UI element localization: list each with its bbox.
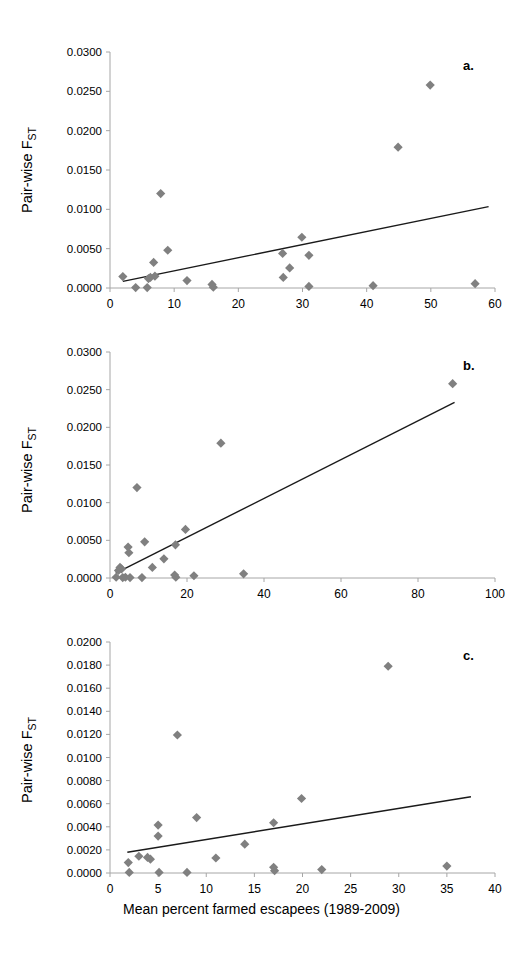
data-point [148,563,157,572]
x-tick-label: 80 [411,587,425,601]
data-point [384,662,393,671]
y-tick-label: 0.0100 [67,497,102,509]
y-tick-label: 0.0020 [67,844,102,856]
panel-c: 0.00000.00200.00400.00600.00800.01000.01… [0,620,523,910]
y-tick-label: 0.0200 [67,636,102,648]
svg-text:Pair-wise FST: Pair-wise FST [19,126,38,213]
data-point [124,858,133,867]
x-tick-label: 25 [344,882,358,896]
x-tick-label: 10 [200,882,214,896]
y-tick-label: 0.0300 [67,46,102,58]
data-point [173,730,182,739]
y-tick-label: 0.0140 [67,705,102,717]
x-tick-label: 20 [232,297,246,311]
data-point [471,279,480,288]
x-tick-label: 10 [167,297,181,311]
x-tick-label: 20 [180,587,194,601]
svg-text:Pair-wise FST: Pair-wise FST [19,716,38,803]
data-point [154,868,163,877]
data-point [181,525,190,534]
y-tick-label: 0.0150 [67,164,102,176]
y-tick-label: 0.0000 [67,867,102,879]
y-tick-label: 0.0100 [67,203,102,215]
x-tick-label: 60 [334,587,348,601]
x-axis-title: Mean percent farmed escapees (1989-2009) [0,901,523,917]
data-point [163,246,172,255]
y-axis-title: Pair-wise FST [19,716,38,803]
data-point [124,548,133,557]
data-point [182,868,191,877]
data-point [297,794,306,803]
data-point [426,80,435,89]
y-tick-label: 0.0050 [67,534,102,546]
y-tick-label: 0.0300 [67,346,102,358]
data-point [304,282,313,291]
data-point [192,813,201,822]
panel-a: 0.00000.00500.01000.01500.02000.02500.03… [0,20,523,320]
data-point [269,818,278,827]
data-point [134,852,143,861]
x-tick-label: 60 [488,297,502,311]
x-tick-label: 40 [360,297,374,311]
y-axis-title: Pair-wise FST [19,426,38,513]
data-point [189,571,198,580]
scatter-plot-c: 0.00000.00200.00400.00600.00800.01000.01… [0,620,523,910]
data-point [304,251,313,260]
y-tick-label: 0.0250 [67,384,102,396]
data-point [297,233,306,242]
y-tick-label: 0.0150 [67,459,102,471]
y-tick-label: 0.0000 [67,572,102,584]
x-tick-label: 5 [155,882,162,896]
scatter-plot-a: 0.00000.00500.01000.01500.02000.02500.03… [0,20,523,320]
data-point [125,868,134,877]
y-tick-label: 0.0200 [67,421,102,433]
data-point [131,283,140,292]
data-point [279,273,288,282]
data-point [278,249,287,258]
data-point [240,840,249,849]
data-point [137,573,146,582]
y-tick-label: 0.0180 [67,659,102,671]
y-tick-label: 0.0050 [67,243,102,255]
data-point [239,569,248,578]
x-tick-label: 0 [107,882,114,896]
y-tick-label: 0.0250 [67,85,102,97]
x-tick-label: 40 [488,882,502,896]
x-tick-label: 40 [257,587,271,601]
data-point [394,143,403,152]
data-point [140,537,149,546]
y-tick-label: 0.0000 [67,282,102,294]
y-tick-label: 0.0160 [67,682,102,694]
data-point [156,189,165,198]
figure-scatter-panels: 0.00000.00500.01000.01500.02000.02500.03… [0,0,523,954]
trendline [127,797,471,852]
x-tick-label: 35 [440,882,454,896]
y-tick-label: 0.0060 [67,798,102,810]
data-point [368,281,377,290]
x-tick-label: 30 [296,297,310,311]
panel-b: 0.00000.00500.01000.01500.02000.02500.03… [0,330,523,620]
panel-letter: b. [463,358,475,373]
x-tick-label: 50 [424,297,438,311]
data-point [159,554,168,563]
x-tick-label: 20 [296,882,310,896]
data-point [285,263,294,272]
data-point [182,276,191,285]
x-tick-label: 15 [248,882,262,896]
y-tick-label: 0.0120 [67,728,102,740]
trendline [116,402,455,573]
x-tick-label: 0 [107,297,114,311]
x-tick-label: 30 [392,882,406,896]
scatter-plot-b: 0.00000.00500.01000.01500.02000.02500.03… [0,330,523,620]
y-tick-label: 0.0080 [67,775,102,787]
x-tick-label: 100 [485,587,505,601]
y-tick-label: 0.0200 [67,125,102,137]
data-point [132,483,141,492]
svg-text:Pair-wise FST: Pair-wise FST [19,426,38,513]
panel-letter: c. [463,648,474,663]
data-point [216,439,225,448]
x-tick-label: 0 [107,587,114,601]
data-point [118,272,127,281]
y-tick-label: 0.0100 [67,752,102,764]
data-point [143,283,152,292]
